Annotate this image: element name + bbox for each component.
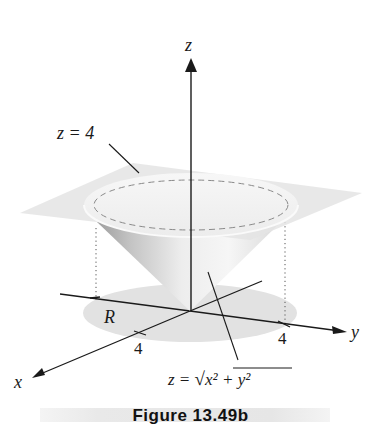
y-neg-tick <box>90 297 100 298</box>
z-axis-label: z <box>184 35 192 55</box>
z-axis-arrowhead <box>185 58 197 72</box>
x-axis-arrowhead <box>32 368 45 378</box>
cone-label: z = √x² + y² <box>167 368 251 389</box>
y-axis-label: y <box>349 322 359 342</box>
figure-caption: Figure 13.49b <box>0 406 381 426</box>
plane-label: z = 4 <box>56 123 94 143</box>
region-label: R <box>103 307 115 327</box>
x-axis-label: x <box>13 372 22 392</box>
y-tick-label: 4 <box>278 329 287 348</box>
y-axis-arrowhead <box>332 326 347 334</box>
x-tick-label: 4 <box>134 339 143 358</box>
